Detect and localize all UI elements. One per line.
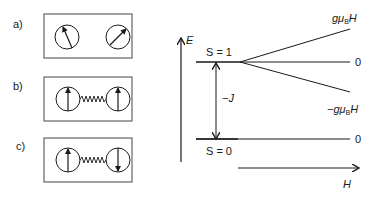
- panel-c-box: [44, 138, 132, 182]
- panel-b: b): [13, 77, 132, 121]
- panel-a: a): [13, 14, 132, 58]
- spin-up-icon: [56, 148, 80, 172]
- energy-level-diagram: E S = 1 gμBH 0 −gμBH −J S = 0 0 H: [181, 12, 361, 190]
- exchange-gap-label: −J: [222, 92, 234, 104]
- branch-lower: [240, 62, 350, 92]
- field-axis-label: H: [343, 178, 351, 190]
- branch-middle-label: 0: [355, 56, 361, 68]
- panel-c-label: c): [16, 140, 25, 152]
- spin-icon: [106, 25, 130, 49]
- spin-up-icon: [56, 87, 80, 111]
- branch-upper-label: gμBH: [332, 12, 357, 25]
- panel-a-label: a): [13, 18, 23, 30]
- branch-lower-label: −gμBH: [327, 103, 358, 116]
- singlet-label: S = 0: [206, 145, 232, 157]
- spring-coupling-icon: [80, 157, 106, 163]
- branch-upper: [240, 29, 350, 62]
- exchange-coupling-diagram: a) b) c): [0, 0, 378, 198]
- energy-axis-label: E: [186, 34, 194, 46]
- ground-branch-label: 0: [355, 133, 361, 145]
- panel-c: c): [16, 138, 132, 182]
- spin-icon: [55, 25, 79, 49]
- panel-b-box: [44, 77, 132, 121]
- spin-up-icon: [106, 87, 130, 111]
- triplet-label: S = 1: [206, 46, 232, 58]
- spin-down-icon: [106, 148, 130, 172]
- spring-coupling-icon: [80, 96, 106, 102]
- panel-b-label: b): [13, 80, 23, 92]
